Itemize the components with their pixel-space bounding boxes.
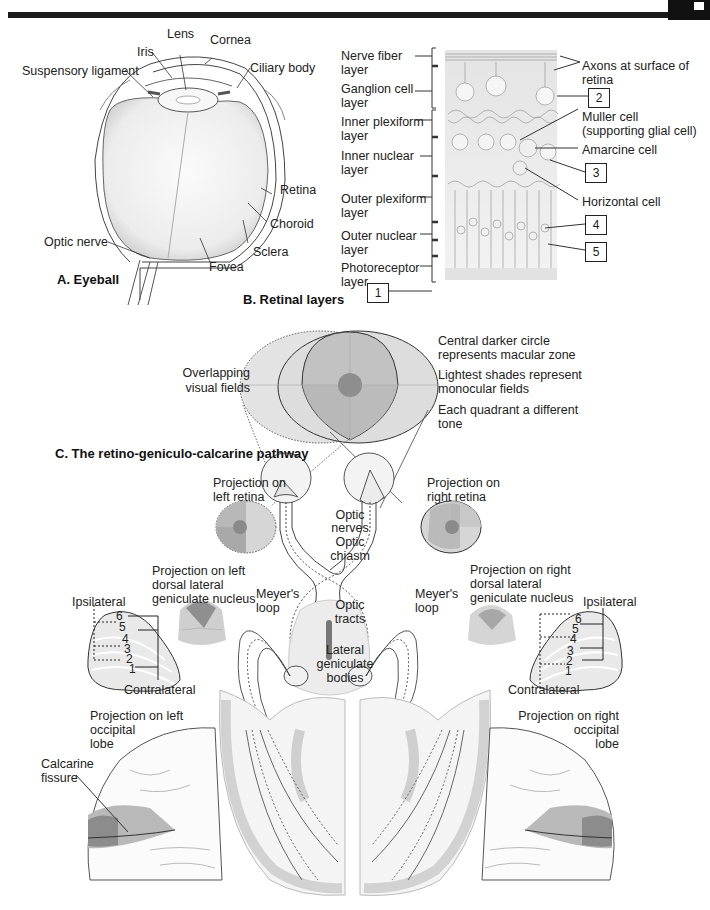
note-quadrant-2: tone xyxy=(438,417,462,431)
label-meyers-left-2: loop xyxy=(256,601,280,615)
label-right-occipital-3: lobe xyxy=(500,737,619,751)
label-right-retina-1: Projection on xyxy=(427,476,500,490)
brain-section xyxy=(219,690,490,895)
label-ciliary-body: Ciliary body xyxy=(250,61,315,75)
label-contralateral-left: Contralateral xyxy=(124,683,196,697)
label-left-occipital-1: Projection on left xyxy=(90,709,183,723)
layer-inner-plexiform-1: Inner plexiform xyxy=(341,115,424,129)
left-lgn-layer-1: 1 xyxy=(129,663,136,675)
label-sclera: Sclera xyxy=(253,245,288,259)
answer-box-5: 5 xyxy=(585,242,607,262)
left-lgn-layers xyxy=(88,605,180,691)
layer-inner-nuclear-2: layer xyxy=(341,163,368,177)
label-axons-1: Axons at surface of xyxy=(582,59,689,73)
label-optic-chiasm-2: chiasm xyxy=(330,549,370,563)
label-right-dlgn-3: geniculate nucleus xyxy=(470,591,574,605)
label-optic-chiasm-1: Optic xyxy=(330,535,370,549)
label-muller-1: Muller cell xyxy=(582,110,638,124)
note-monocular-2: monocular fields xyxy=(438,382,529,396)
label-calcarine-1: Calcarine xyxy=(41,757,94,771)
label-right-occipital-1: Projection on right xyxy=(500,709,619,723)
layer-inner-plexiform-2: layer xyxy=(341,129,368,143)
panel-a-title: A. Eyeball xyxy=(57,272,119,287)
retina-layers-illustration xyxy=(389,48,590,291)
label-lgb-1: Lateral xyxy=(315,643,375,657)
label-suspensory-ligament: Suspensory ligament xyxy=(22,64,139,78)
label-meyers-right-2: loop xyxy=(415,601,439,615)
label-lens: Lens xyxy=(167,27,194,41)
label-calcarine-2: fissure xyxy=(41,771,78,785)
label-optic-nerves-1: Optic xyxy=(330,508,370,522)
label-overlapping-2: visual fields xyxy=(170,381,250,395)
label-horizontal: Horizontal cell xyxy=(582,195,661,209)
label-overlapping-1: Overlapping xyxy=(180,366,250,380)
label-optic-tracts-2: tracts xyxy=(330,612,370,626)
layer-photoreceptor-2: layer xyxy=(341,275,368,289)
layer-outer-plexiform-1: Outer plexiform xyxy=(341,192,426,206)
label-ipsilateral-right: Ipsilateral xyxy=(583,595,637,609)
label-left-occipital-3: lobe xyxy=(90,737,114,751)
label-left-dlgn-1: Projection on left xyxy=(152,564,245,578)
note-monocular-1: Lightest shades represent xyxy=(438,368,582,382)
note-quadrant-1: Each quadrant a different xyxy=(438,403,578,417)
label-muller-2: (supporting glial cell) xyxy=(582,124,697,138)
layer-outer-plexiform-2: layer xyxy=(341,206,368,220)
layer-inner-nuclear-1: Inner nuclear xyxy=(341,149,414,163)
layer-photoreceptor-1: Photoreceptor xyxy=(341,261,420,275)
label-right-dlgn-1: Projection on right xyxy=(470,563,571,577)
layer-ganglion-2: layer xyxy=(341,96,368,110)
label-left-retina-1: Projection on xyxy=(213,476,286,490)
note-macular-1: Central darker circle xyxy=(438,334,550,348)
answer-box-2: 2 xyxy=(588,88,610,108)
answer-box-1: 1 xyxy=(367,283,389,303)
layer-nerve-fiber-2: layer xyxy=(341,63,368,77)
answer-box-4: 4 xyxy=(585,215,607,235)
right-retina-projection xyxy=(421,501,481,553)
label-left-retina-2: left retina xyxy=(213,490,264,504)
label-right-dlgn-2: dorsal lateral xyxy=(470,577,542,591)
right-lgn-layer-1: 1 xyxy=(565,665,572,677)
label-right-occipital-2: occipital xyxy=(500,723,619,737)
label-retina: Retina xyxy=(280,183,316,197)
label-amarcine: Amarcine cell xyxy=(582,143,657,157)
answer-box-3: 3 xyxy=(585,163,607,183)
label-contralateral-right: Contralateral xyxy=(508,683,580,697)
label-axons-2: retina xyxy=(582,73,613,87)
layer-nerve-fiber-1: Nerve fiber xyxy=(341,49,402,63)
label-cornea: Cornea xyxy=(210,33,251,47)
left-retina-projection xyxy=(216,501,276,553)
layer-ganglion-1: Ganglion cell xyxy=(341,82,413,96)
layer-outer-nuclear-2: layer xyxy=(341,243,368,257)
panel-b-title: B. Retinal layers xyxy=(243,292,344,307)
label-right-retina-2: right retina xyxy=(427,490,486,504)
left-dlgn-projection xyxy=(178,600,226,645)
label-left-dlgn-2: dorsal lateral xyxy=(152,578,224,592)
label-meyers-left-1: Meyer's xyxy=(256,587,299,601)
right-dlgn-projection xyxy=(468,605,516,645)
label-lgb-3: bodies xyxy=(315,671,375,685)
label-left-dlgn-3: geniculate nucleus xyxy=(152,592,256,606)
note-macular-2: represents macular zone xyxy=(438,348,576,362)
label-optic-tracts-1: Optic xyxy=(330,598,370,612)
label-meyers-right-1: Meyer's xyxy=(415,587,458,601)
layer-outer-nuclear-1: Outer nuclear xyxy=(341,229,417,243)
label-fovea: Fovea xyxy=(209,260,244,274)
label-optic-nerves-2: nerves xyxy=(330,521,370,535)
label-lgb-2: geniculate xyxy=(315,657,375,671)
label-choroid: Choroid xyxy=(270,217,314,231)
label-iris: Iris xyxy=(137,45,154,59)
eyeball-illustration xyxy=(95,57,285,305)
label-ipsilateral-left: Ipsilateral xyxy=(72,595,126,609)
panel-c-title: C. The retino-geniculo-calcarine pathway xyxy=(55,446,309,461)
label-optic-nerve: Optic nerve xyxy=(44,235,108,249)
label-left-occipital-2: occipital xyxy=(90,723,135,737)
